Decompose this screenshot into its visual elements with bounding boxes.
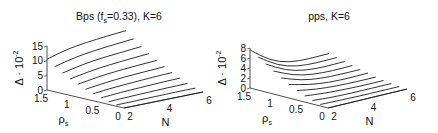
- panel-bps: Bps (fs=0.33), K=6 0510151.510.50246 Nρs…: [12, 10, 212, 128]
- series-line: [86, 67, 165, 90]
- n-tick-label: 6: [206, 95, 212, 106]
- series-line: [328, 89, 407, 108]
- z-tick-mark: [44, 90, 47, 91]
- series-line: [70, 54, 149, 79]
- n-tick-label: 2: [127, 111, 133, 122]
- z-tick-label: 2: [240, 73, 246, 84]
- z-tick-mark: [247, 58, 250, 59]
- z-tick-label: 6: [240, 53, 246, 64]
- z-tick-label: 5: [37, 70, 43, 81]
- z-tick-mark: [247, 78, 250, 79]
- rho-tick-label: 0: [319, 111, 325, 122]
- n-axis-label: N: [366, 115, 374, 127]
- z-tick-mark: [44, 46, 47, 47]
- series-line: [250, 50, 329, 62]
- series-line: [273, 66, 352, 75]
- z-tick-mark: [44, 75, 47, 76]
- z-label-main: Δ · 10: [13, 57, 25, 86]
- series-line: [62, 47, 141, 74]
- z-axis-label: Δ · 10-2: [215, 50, 228, 85]
- series-line: [266, 62, 345, 71]
- z-tick-mark: [247, 68, 250, 69]
- rho-axis-label: ρs: [262, 112, 272, 126]
- title-main: pps, K=6: [308, 10, 350, 22]
- z-label-exponent: -2: [12, 50, 19, 56]
- z-tick-mark: [247, 88, 250, 89]
- rho-tick-label: 1.5: [34, 93, 48, 104]
- n-tick-label: 4: [371, 102, 377, 113]
- rho-subscript: s: [65, 120, 69, 127]
- rho-tick-label: 1: [64, 99, 70, 110]
- series-lines-bps: [47, 31, 203, 108]
- figure: Bps (fs=0.33), K=6 0510151.510.50246 Nρs…: [0, 0, 438, 133]
- n-axis-label: N: [162, 116, 170, 128]
- series-line: [258, 57, 337, 66]
- z-tick-label: 15: [32, 41, 44, 52]
- rho-tick-label: 1: [267, 98, 273, 109]
- title-main: Bps (f: [76, 10, 104, 22]
- series-line: [297, 77, 376, 91]
- tick-labels-bps: 0510151.510.50246: [32, 41, 212, 123]
- panel-pps: pps, K=6 024681.510.50246 NρsΔ · 10-2: [215, 10, 416, 127]
- rho-tick-label: 0: [115, 111, 121, 122]
- n-tick-label: 2: [331, 111, 337, 122]
- rho-axis-label: ρs: [59, 113, 69, 127]
- z-label-main: Δ · 10: [216, 57, 228, 86]
- z-axis-label: Δ · 10-2: [12, 50, 25, 85]
- z-tick-mark: [247, 48, 250, 49]
- rho-tick-label: 0.5: [289, 104, 303, 115]
- n-tick-label: 4: [167, 103, 173, 114]
- chart-title-bps: Bps (fs=0.33), K=6: [76, 10, 162, 24]
- z-tick-mark: [44, 61, 47, 62]
- z-tick-label: 8: [240, 43, 246, 54]
- series-line: [320, 87, 399, 105]
- series-line: [55, 39, 134, 67]
- rho-subscript: s: [268, 119, 272, 126]
- title-rest: =0.33), K=6: [107, 10, 162, 22]
- z-tick-label: 10: [32, 55, 44, 66]
- z-label-exponent: -2: [215, 50, 222, 56]
- rho-tick-label: 0.5: [85, 105, 99, 116]
- chart-title-pps: pps, K=6: [308, 10, 350, 22]
- z-tick-label: 4: [240, 63, 246, 74]
- series-line: [78, 60, 157, 84]
- rho-tick-label: 1.5: [237, 91, 251, 102]
- n-tick-label: 6: [410, 92, 416, 103]
- series-lines-pps: [250, 50, 407, 108]
